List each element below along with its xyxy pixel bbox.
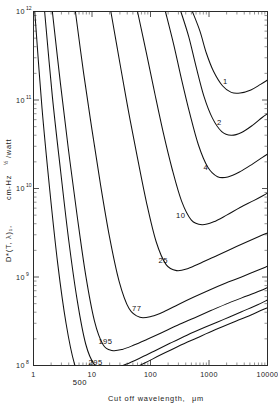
x-tick-label: 1 <box>31 370 35 379</box>
x-tick-label: 10000 <box>257 370 279 379</box>
y-tick-label: 108 <box>16 359 29 370</box>
curve-label-295K: 295 <box>88 358 102 367</box>
curve-500K <box>35 12 268 386</box>
curve-4K <box>165 12 267 178</box>
curve-295K <box>45 12 268 370</box>
y-tick-label-exponent: 12 <box>26 5 32 11</box>
x-tick-label: 1000 <box>200 370 218 379</box>
y-axis-minor-ticks <box>34 16 268 339</box>
x-tick-label: 10 <box>88 370 97 379</box>
y-axis-symbol-text: D*(T, λ)₁, <box>4 225 13 262</box>
y-tick-label-exponent: 10 <box>26 182 32 188</box>
y-tick-label: 1010 <box>16 182 32 193</box>
y-tick-label: 109 <box>16 271 29 282</box>
curve-label-77K: 77 <box>132 304 141 313</box>
y-axis-units-tail-text: /watt <box>4 139 13 158</box>
detectivity-chart-figure: 124102577195295500 110100100010000 10121… <box>0 0 278 408</box>
y-axis-units-exponent: ½ <box>3 160 9 165</box>
curve-label-2K: 2 <box>217 118 222 127</box>
y-tick-label-mantissa: 10 <box>16 361 25 370</box>
curve-label-25K: 25 <box>158 256 167 265</box>
y-tick-label: 1012 <box>16 5 32 16</box>
y-axis-units-text: cm-Hz <box>4 175 13 200</box>
curve-195K <box>52 12 267 351</box>
x-axis-title: Cut off wavelength, μm <box>108 394 204 403</box>
data-curves <box>35 12 268 386</box>
y-tick-label-exponent: 11 <box>26 94 31 100</box>
y-axis-title: D*(T, λ)₁, cm-Hz ½ /watt <box>3 139 13 262</box>
y-tick-label-mantissa: 10 <box>16 96 25 105</box>
y-tick-label-mantissa: 10 <box>16 7 25 16</box>
y-axis-tick-labels: 101210111010109108 <box>16 5 32 370</box>
y-axis-major-ticks <box>34 12 268 366</box>
y-tick-label: 1011 <box>16 94 31 105</box>
curve-1K <box>192 12 267 94</box>
curve-label-4K: 4 <box>203 163 208 172</box>
x-axis-major-ticks <box>34 12 268 366</box>
x-axis-minor-ticks <box>51 12 265 366</box>
y-tick-label-exponent: 9 <box>26 271 29 277</box>
y-tick-label-exponent: 8 <box>26 359 29 365</box>
curve-2K <box>181 12 268 136</box>
curve-label-1K: 1 <box>223 77 228 86</box>
curve-label-195K: 195 <box>98 337 112 346</box>
curve-25K <box>111 12 268 271</box>
curve-label-500K: 500 <box>73 378 87 387</box>
chart-svg: 124102577195295500 110100100010000 10121… <box>0 0 278 408</box>
plot-frame <box>34 12 268 366</box>
y-tick-label-mantissa: 10 <box>16 184 25 193</box>
x-axis-unit-text: μm <box>192 394 204 403</box>
x-tick-label: 100 <box>144 370 157 379</box>
curve-labels: 124102577195295500 <box>73 77 228 387</box>
y-tick-label-mantissa: 10 <box>16 273 25 282</box>
curve-label-10K: 10 <box>176 211 185 220</box>
x-axis-title-text: Cut off wavelength, <box>108 394 185 403</box>
curve-10K <box>138 12 268 225</box>
x-axis-tick-labels: 110100100010000 <box>31 370 278 379</box>
